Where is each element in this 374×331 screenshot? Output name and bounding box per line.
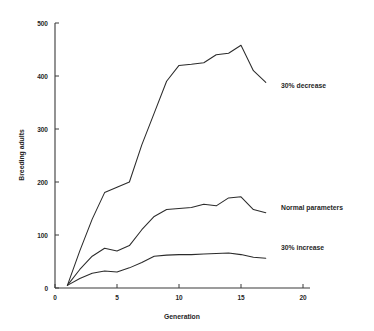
chart-plot-area: 500 400 300 200 100 0 0 5 10 15 20 Gener…	[0, 0, 374, 331]
series-line-30-decrease	[67, 45, 265, 285]
series-annotation-normal-parameters: Normal parameters	[281, 204, 343, 212]
x-axis-ticks	[55, 284, 303, 288]
y-tick-label-200: 200	[37, 179, 48, 186]
y-tick-label-500: 500	[37, 20, 48, 27]
y-tick-label-0: 0	[44, 285, 48, 292]
y-tick-label-400: 400	[37, 73, 48, 80]
x-tick-label-0: 0	[53, 294, 57, 301]
y-axis-ticks	[55, 23, 59, 288]
chart-figure: 500 400 300 200 100 0 0 5 10 15 20 Gener…	[0, 0, 374, 331]
x-tick-label-5: 5	[115, 294, 119, 301]
x-tick-label-20: 20	[299, 294, 307, 301]
y-axis-title: Breeding adults	[18, 129, 26, 181]
series-line-30-increase	[67, 253, 265, 285]
x-axis-title: Generation	[164, 313, 200, 320]
x-tick-label-10: 10	[175, 294, 183, 301]
y-tick-label-100: 100	[37, 232, 48, 239]
series-annotation-30-increase: 30% increase	[281, 244, 324, 251]
y-tick-label-300: 300	[37, 126, 48, 133]
x-tick-label-15: 15	[237, 294, 245, 301]
series-annotation-30-decrease: 30% decrease	[281, 82, 326, 89]
